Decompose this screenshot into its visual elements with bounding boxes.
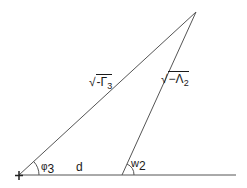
angle-arc-origin: [34, 162, 39, 176]
hypotenuse-label-body: -Γ3: [96, 74, 113, 89]
hypotenuse-label: √-Γ3: [89, 76, 112, 88]
right-side-label: √−Λ2: [161, 73, 189, 85]
right-side-line: [122, 12, 196, 175]
right-side-label-body: −Λ2: [168, 71, 189, 86]
hypotenuse-line: [19, 12, 196, 175]
base-segment-label: d: [76, 161, 83, 173]
radical-sign: √: [89, 75, 96, 89]
angle-origin-label: φ3: [41, 160, 54, 172]
radical-sign: √: [161, 72, 168, 86]
triangle-diagram: [0, 0, 247, 188]
angle-foot-label: w2: [131, 157, 146, 169]
